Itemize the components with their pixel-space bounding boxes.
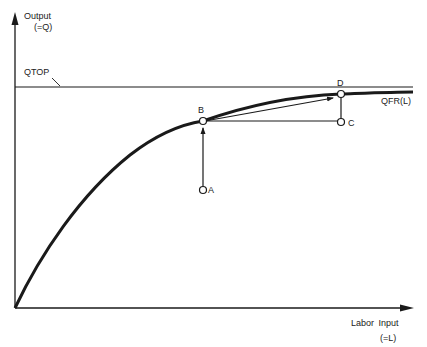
y-axis bbox=[12, 12, 19, 308]
point-c bbox=[338, 119, 345, 126]
point-a-label: A bbox=[208, 185, 214, 195]
y-axis-arrow-icon bbox=[12, 12, 19, 25]
point-b bbox=[200, 118, 207, 125]
point-c-label: C bbox=[348, 118, 355, 128]
point-b-label: B bbox=[198, 105, 204, 115]
y-axis-sublabel: (=Q) bbox=[34, 22, 52, 32]
point-d bbox=[338, 91, 345, 98]
y-axis-label: Output bbox=[24, 11, 51, 21]
x-axis bbox=[15, 305, 414, 312]
production-function-diagram bbox=[0, 0, 427, 347]
x-axis-sublabel: (=L) bbox=[380, 333, 396, 343]
point-a bbox=[200, 187, 207, 194]
x-axis-label: Labor Input bbox=[351, 318, 399, 328]
point-d-label: D bbox=[337, 78, 344, 88]
qfr-curve-label: QFR(L) bbox=[381, 96, 411, 106]
qtop-label: QTOP bbox=[24, 67, 49, 77]
qtop-leader bbox=[52, 78, 60, 86]
x-axis-arrow-icon bbox=[400, 305, 414, 312]
